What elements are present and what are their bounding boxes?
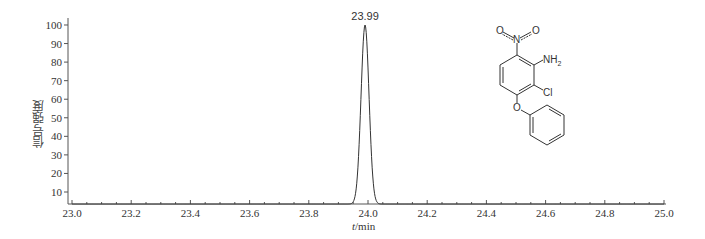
x-tick-label: 25.0 [654,207,674,219]
x-axis-label: t/min [352,220,375,232]
x-tick-label: 24.6 [536,207,556,219]
x-tick-label: 23.4 [181,207,201,219]
nitro-oxygen-right: O [532,25,540,36]
molecule-labels: O O N NH2 Cl O [496,25,561,113]
x-tick-label: 24.0 [358,207,378,219]
y-tick-label: 100 [46,19,63,31]
nitro-oxygen-left: O [496,25,504,36]
x-tick-label: 23.8 [299,207,319,219]
x-tick-label: 23.2 [122,207,141,219]
y-tick-label: 30 [51,149,63,161]
y-tick-label: 70 [51,75,63,87]
y-tick-label: 80 [51,56,63,68]
x-tick-label: 24.8 [595,207,615,219]
y-tick-label: 90 [51,38,63,50]
x-tick-label: 24.2 [418,207,437,219]
molecule-structure [500,32,564,145]
y-tick-label: 10 [51,186,63,198]
y-axis-label: 信号强度 [30,100,50,148]
x-tick-label: 23.0 [62,207,82,219]
ether-oxygen-label: O [513,102,521,113]
y-tick-label: 60 [51,93,63,105]
peak-label: 23.99 [351,10,379,22]
nitro-nitrogen: N [513,34,520,45]
chromatogram-chart: 102030405060708090100 23.023.223.423.623… [0,0,705,239]
y-tick-label: 50 [51,112,63,124]
y-tick-label: 20 [51,167,63,179]
y-tick-label: 40 [51,130,63,142]
x-tick-label: 24.4 [477,207,497,219]
x-axis-ticks: 23.023.223.423.623.824.024.224.424.624.8… [62,200,674,219]
chloro-label: Cl [543,87,552,98]
chromatogram-trace [72,25,664,204]
amine-label: NH2 [543,54,561,67]
x-tick-label: 23.6 [240,207,260,219]
